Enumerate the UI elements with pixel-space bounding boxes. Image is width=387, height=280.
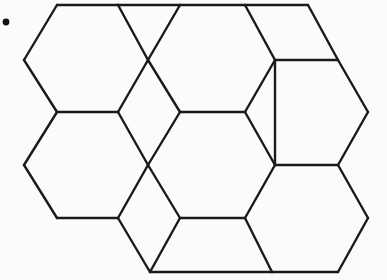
corner-dot <box>3 19 10 26</box>
tessellation-drawing <box>0 0 387 280</box>
figure-mark-group <box>3 19 10 26</box>
figure-canvas <box>0 0 387 280</box>
